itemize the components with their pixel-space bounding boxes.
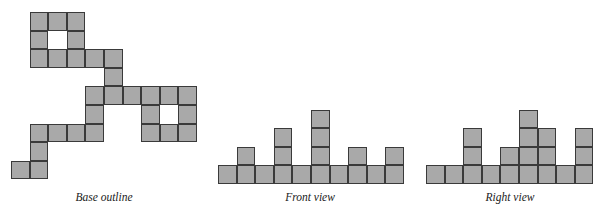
base-cell	[30, 124, 49, 143]
right-view-cell	[445, 165, 464, 184]
right-view-cell	[426, 165, 445, 184]
base-cell	[67, 49, 86, 68]
base-cell	[67, 124, 86, 143]
base-cell	[85, 86, 104, 105]
base-cell	[178, 105, 197, 124]
front-view-cell	[311, 110, 330, 129]
base-cell	[85, 105, 104, 124]
right-view-cell	[538, 147, 557, 166]
front-view-cell	[311, 165, 330, 184]
base-cell	[178, 86, 197, 105]
base-cell	[67, 12, 86, 31]
base-cell	[141, 124, 160, 143]
front-view-cell	[385, 165, 404, 184]
right-view-cell	[500, 165, 519, 184]
front-view-cell	[255, 165, 274, 184]
front-view-cell	[292, 165, 311, 184]
front-view-caption: Front view	[285, 191, 335, 203]
base-cell	[30, 161, 49, 180]
right-view-cell	[463, 147, 482, 166]
front-view-cell	[218, 165, 237, 184]
front-view-cell	[385, 147, 404, 166]
base-cell	[123, 86, 142, 105]
base-cell	[48, 12, 67, 31]
right-view-cell	[519, 110, 538, 129]
base-outline-caption: Base outline	[75, 191, 132, 203]
base-cell	[160, 124, 179, 143]
right-view-cell	[575, 165, 594, 184]
front-view-cell	[311, 128, 330, 147]
front-view-cell	[274, 165, 293, 184]
right-view-cell	[482, 165, 501, 184]
right-view-caption: Right view	[486, 191, 535, 203]
right-view-cell	[463, 165, 482, 184]
base-cell	[178, 124, 197, 143]
right-view-cell	[575, 128, 594, 147]
base-cell	[30, 12, 49, 31]
base-cell	[141, 86, 160, 105]
right-view-cell	[519, 147, 538, 166]
right-view-cell	[538, 128, 557, 147]
front-view-cell	[274, 128, 293, 147]
front-view-cell	[237, 165, 256, 184]
front-view-cell	[311, 147, 330, 166]
front-view-cell	[237, 147, 256, 166]
base-cell	[141, 105, 160, 124]
base-cell	[30, 142, 49, 161]
base-cell	[11, 161, 30, 180]
base-cell	[48, 124, 67, 143]
right-view-cell	[519, 165, 538, 184]
right-view-cell	[519, 128, 538, 147]
right-view-cell	[463, 128, 482, 147]
base-cell	[160, 86, 179, 105]
base-cell	[48, 49, 67, 68]
right-view-cell	[500, 147, 519, 166]
front-view-cell	[330, 165, 349, 184]
base-cell	[30, 49, 49, 68]
base-cell	[104, 49, 123, 68]
front-view-cell	[274, 147, 293, 166]
right-view-cell	[538, 165, 557, 184]
base-cell	[85, 49, 104, 68]
base-cell	[67, 31, 86, 50]
right-view-cell	[575, 147, 594, 166]
front-view-cell	[348, 165, 367, 184]
front-view-cell	[348, 147, 367, 166]
base-cell	[30, 31, 49, 50]
base-cell	[85, 124, 104, 143]
base-cell	[104, 86, 123, 105]
front-view-cell	[367, 165, 386, 184]
right-view-cell	[556, 165, 575, 184]
base-cell	[104, 68, 123, 87]
